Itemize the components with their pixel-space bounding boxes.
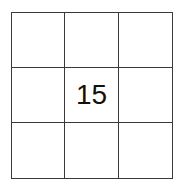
grid-cell-r1c2	[65, 13, 118, 68]
number-grid: 15	[11, 12, 173, 179]
grid-cell-r1c3	[119, 13, 172, 68]
grid-cell-r2c3	[119, 68, 172, 123]
grid-cell-center: 15	[65, 68, 118, 123]
grid-cell-r1c1	[12, 13, 65, 68]
grid-cell-r3c1	[12, 123, 65, 178]
grid-cell-r2c1	[12, 68, 65, 123]
grid-cell-r3c2	[65, 123, 118, 178]
grid-cell-r3c3	[119, 123, 172, 178]
